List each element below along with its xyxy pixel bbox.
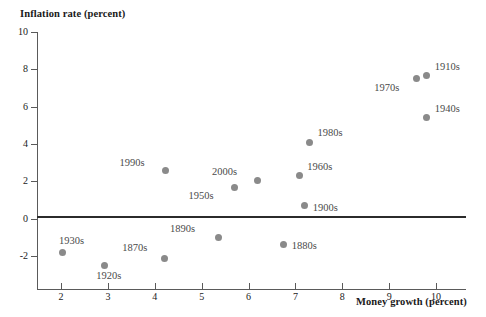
y-tick-mark bbox=[31, 219, 37, 220]
x-tick-label: 4 bbox=[140, 292, 170, 302]
zero-reference-line bbox=[37, 216, 466, 218]
data-point-label: 1980s bbox=[317, 128, 342, 139]
x-tick-label: 8 bbox=[327, 292, 357, 302]
data-point[interactable] bbox=[59, 249, 66, 256]
data-point[interactable] bbox=[423, 72, 430, 79]
y-tick-mark bbox=[31, 32, 37, 33]
data-point-label: 1880s bbox=[292, 241, 317, 252]
y-axis-line bbox=[37, 32, 38, 290]
data-point[interactable] bbox=[280, 241, 287, 248]
x-tick-mark bbox=[342, 283, 343, 289]
data-point[interactable] bbox=[161, 255, 168, 262]
x-tick-mark bbox=[155, 283, 156, 289]
data-point-label: 1970s bbox=[374, 83, 399, 94]
scatter-chart-figure: Inflation rate (percent) Money growth (p… bbox=[0, 0, 486, 317]
data-point[interactable] bbox=[296, 172, 303, 179]
x-tick-mark bbox=[249, 283, 250, 289]
y-tick-mark bbox=[31, 69, 37, 70]
y-tick-label: 6 bbox=[0, 102, 28, 112]
x-tick-mark bbox=[202, 283, 203, 289]
data-point-label: 1930s bbox=[59, 236, 84, 247]
data-point-label: 1990s bbox=[120, 158, 145, 169]
x-tick-mark bbox=[436, 283, 437, 289]
y-tick-mark bbox=[31, 181, 37, 182]
y-tick-label: 0 bbox=[0, 214, 28, 224]
x-tick-label: 7 bbox=[280, 292, 310, 302]
data-point[interactable] bbox=[215, 234, 222, 241]
y-tick-label: 8 bbox=[0, 64, 28, 74]
data-point-label: 1870s bbox=[122, 243, 147, 254]
data-point-label: 1940s bbox=[435, 104, 460, 115]
y-tick-label: -2 bbox=[0, 251, 28, 261]
x-tick-label: 2 bbox=[46, 292, 76, 302]
data-point-label: 1960s bbox=[307, 162, 332, 173]
y-tick-mark bbox=[31, 107, 37, 108]
x-tick-label: 5 bbox=[187, 292, 217, 302]
y-tick-label: 2 bbox=[0, 176, 28, 186]
data-point[interactable] bbox=[306, 139, 313, 146]
plot-area: 1086420-2 2345678910 1870s1880s1890s1900… bbox=[0, 0, 486, 317]
data-point-label: 1910s bbox=[435, 62, 460, 73]
data-point[interactable] bbox=[301, 202, 308, 209]
y-tick-label: 4 bbox=[0, 139, 28, 149]
y-tick-mark bbox=[31, 256, 37, 257]
data-point[interactable] bbox=[413, 75, 420, 82]
x-tick-label: 6 bbox=[234, 292, 264, 302]
x-tick-label: 3 bbox=[93, 292, 123, 302]
data-point-label: 1890s bbox=[170, 224, 195, 235]
y-tick-label: 10 bbox=[0, 27, 28, 37]
x-tick-label: 10 bbox=[421, 292, 451, 302]
data-point-label: 1900s bbox=[313, 203, 338, 214]
data-point[interactable] bbox=[423, 114, 430, 121]
x-axis-line bbox=[37, 289, 466, 290]
x-tick-label: 9 bbox=[374, 292, 404, 302]
y-tick-mark bbox=[31, 144, 37, 145]
data-point[interactable] bbox=[101, 262, 108, 269]
data-point-label: 1950s bbox=[188, 191, 213, 202]
data-point-label: 2000s bbox=[212, 167, 237, 178]
x-tick-mark bbox=[61, 283, 62, 289]
x-tick-mark bbox=[389, 283, 390, 289]
x-tick-mark bbox=[295, 283, 296, 289]
data-point[interactable] bbox=[254, 177, 261, 184]
data-point-label: 1920s bbox=[96, 271, 121, 282]
data-point[interactable] bbox=[162, 167, 169, 174]
data-point[interactable] bbox=[231, 184, 238, 191]
x-tick-mark bbox=[108, 283, 109, 289]
